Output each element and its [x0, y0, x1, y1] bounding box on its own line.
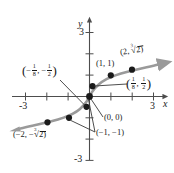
- point-one: [108, 72, 114, 78]
- point-label-neg-two-cbrt2: (−2, −3√2): [13, 130, 46, 139]
- y-tick-label-3: 3: [79, 27, 84, 37]
- point-label-neg-eighth-neg-half: (−18, −12): [22, 63, 57, 77]
- point-label-origin: (0, 0): [104, 113, 122, 122]
- x-axis-label: x: [163, 99, 167, 109]
- point-label-neg-one: (−1, −1): [96, 128, 124, 137]
- leader-origin: [91, 99, 103, 117]
- x-tick-label-neg3: -3: [19, 101, 27, 111]
- leader-neg-one: [71, 120, 96, 132]
- point-neg1: [66, 115, 72, 121]
- point-label-eighth-half: (18, 12): [126, 76, 151, 90]
- cube-root-graph-figure: y x -3 3 3 -3 (1, 1) (2, 3√2) (18, 12) (…: [0, 0, 174, 173]
- point-origin: [86, 93, 93, 100]
- point-two: [129, 67, 135, 73]
- point-neg2: [44, 119, 50, 125]
- x-tick-label-3: 3: [150, 101, 155, 111]
- leader-neg-eighth: [60, 80, 85, 106]
- y-tick-label-neg3: -3: [74, 154, 82, 164]
- point-label-one-one: (1, 1): [96, 59, 114, 68]
